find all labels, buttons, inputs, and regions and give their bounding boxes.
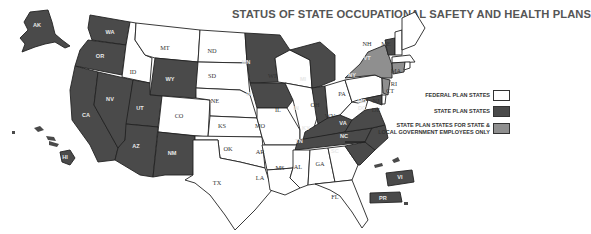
label-nm: NM — [168, 150, 177, 156]
label-va: VA — [339, 120, 346, 126]
label-wa: WA — [105, 29, 114, 35]
label-id: ID — [130, 68, 137, 75]
label-vt: VT — [363, 55, 371, 61]
label-ks: KS — [218, 122, 227, 129]
label-wv: WV — [325, 112, 336, 119]
label-az: AZ — [132, 143, 140, 149]
label-ar: AR — [256, 148, 266, 155]
label-mi: MI — [300, 76, 307, 82]
label-ri: RI — [391, 80, 397, 87]
label-tn: TN — [295, 138, 302, 144]
label-vi: VI — [397, 174, 403, 180]
label-or: OR — [96, 53, 104, 59]
label-ga: GA — [315, 160, 325, 167]
legend-item-federal: FEDERAL PLAN STATES — [350, 90, 510, 101]
label-sc: SC — [331, 148, 339, 154]
label-ky: KY — [302, 125, 310, 131]
label-mn: MN — [242, 59, 251, 65]
state-ak[interactable] — [20, 10, 70, 52]
label-tx: TX — [213, 179, 222, 186]
label-in: IN — [293, 105, 299, 111]
state-fl[interactable] — [315, 180, 368, 228]
label-wy: WY — [165, 76, 174, 82]
legend-swatch-state-plan — [493, 106, 510, 117]
label-ia: IA — [246, 91, 252, 97]
state-co[interactable] — [158, 96, 210, 137]
label-nc: NC — [340, 133, 348, 139]
state-ri[interactable] — [404, 62, 410, 70]
label-nv: NV — [106, 96, 114, 102]
label-la: LA — [256, 174, 265, 181]
label-pa: PA — [338, 90, 346, 97]
label-wi: WI — [268, 72, 276, 79]
label-ny: NY — [348, 72, 356, 78]
label-pr: PR — [379, 195, 387, 201]
label-ne: NE — [211, 97, 220, 104]
label-sd: SD — [208, 72, 217, 79]
label-hi: HI — [62, 154, 68, 160]
label-al: AL — [294, 163, 303, 170]
legend-item-gov-only: STATE PLAN STATES FOR STATE & LOCAL GOVE… — [350, 122, 510, 135]
legend-label-gov-only: STATE PLAN STATES FOR STATE & LOCAL GOVE… — [378, 122, 490, 135]
label-co: CO — [175, 112, 184, 119]
label-ak: AK — [33, 22, 41, 28]
label-mo: MO — [255, 122, 266, 129]
legend-swatch-gov-only — [493, 123, 510, 134]
label-ut: UT — [136, 105, 144, 111]
state-me[interactable] — [402, 12, 425, 50]
label-ok: OK — [223, 145, 233, 152]
legend: FEDERAL PLAN STATES STATE PLAN STATES ST… — [350, 90, 510, 140]
label-fl: FL — [331, 193, 339, 200]
state-hi-islands — [12, 126, 59, 147]
state-nh[interactable] — [395, 30, 402, 55]
label-mt: MT — [160, 44, 170, 51]
label-ca: CA — [82, 112, 90, 118]
label-oh: OH — [310, 101, 320, 108]
label-il: IL — [275, 106, 281, 113]
legend-swatch-federal — [493, 90, 510, 101]
legend-label-state-plan: STATE PLAN STATES — [434, 108, 490, 115]
label-ma: MA — [391, 67, 402, 74]
legend-label-federal: FEDERAL PLAN STATES — [425, 92, 490, 99]
legend-label-gov-only-line2: LOCAL GOVERNMENT EMPLOYEES ONLY — [378, 129, 490, 136]
state-ks[interactable] — [208, 116, 262, 137]
label-me: ME — [381, 40, 391, 47]
label-nh: NH — [362, 40, 372, 47]
label-nd: ND — [207, 47, 217, 54]
legend-item-state-plan: STATE PLAN STATES — [350, 106, 510, 117]
state-nd[interactable] — [198, 30, 247, 63]
label-ms: MS — [275, 164, 285, 171]
